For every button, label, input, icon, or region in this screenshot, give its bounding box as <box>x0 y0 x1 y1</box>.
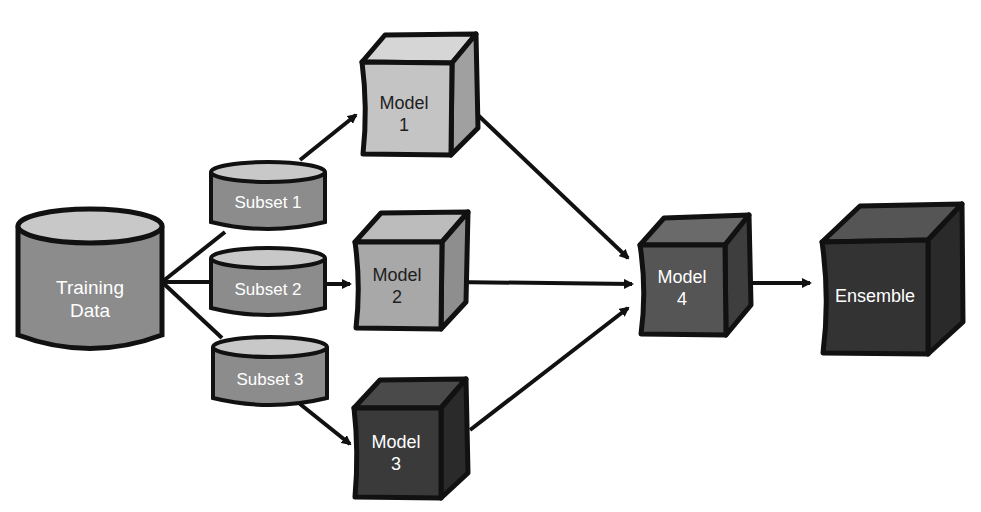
edge-model1-model4 <box>460 98 628 258</box>
subset2-label: Subset 2 <box>234 280 301 300</box>
model1-label: Model 1 <box>379 93 428 136</box>
model2-line2: 2 <box>372 287 421 309</box>
model1-line1: Model <box>379 93 428 115</box>
edge-model3-model4 <box>470 308 628 430</box>
model3-line2: 3 <box>371 454 420 476</box>
diagram-canvas <box>0 0 981 512</box>
model1-line2: 1 <box>379 115 428 137</box>
subset1-label: Subset 1 <box>234 193 301 213</box>
ensemble-cube <box>822 204 963 354</box>
training-data-line2: Data <box>56 300 124 323</box>
model4-label: Model 4 <box>657 267 706 310</box>
edge-model2-model4 <box>452 282 632 284</box>
model3-line1: Model <box>371 432 420 454</box>
edge-subset1-model1 <box>300 115 356 160</box>
model2-label: Model 2 <box>372 265 421 308</box>
ensemble-label: Ensemble <box>835 286 915 308</box>
model3-label: Model 3 <box>371 432 420 475</box>
training-data-line1: Training <box>56 277 124 300</box>
training-data-label: Training Data <box>56 277 124 323</box>
edge-subset3-model3 <box>300 404 350 444</box>
model2-line1: Model <box>372 265 421 287</box>
model4-line2: 4 <box>657 289 706 311</box>
subset3-label: Subset 3 <box>236 370 303 390</box>
model4-line1: Model <box>657 267 706 289</box>
